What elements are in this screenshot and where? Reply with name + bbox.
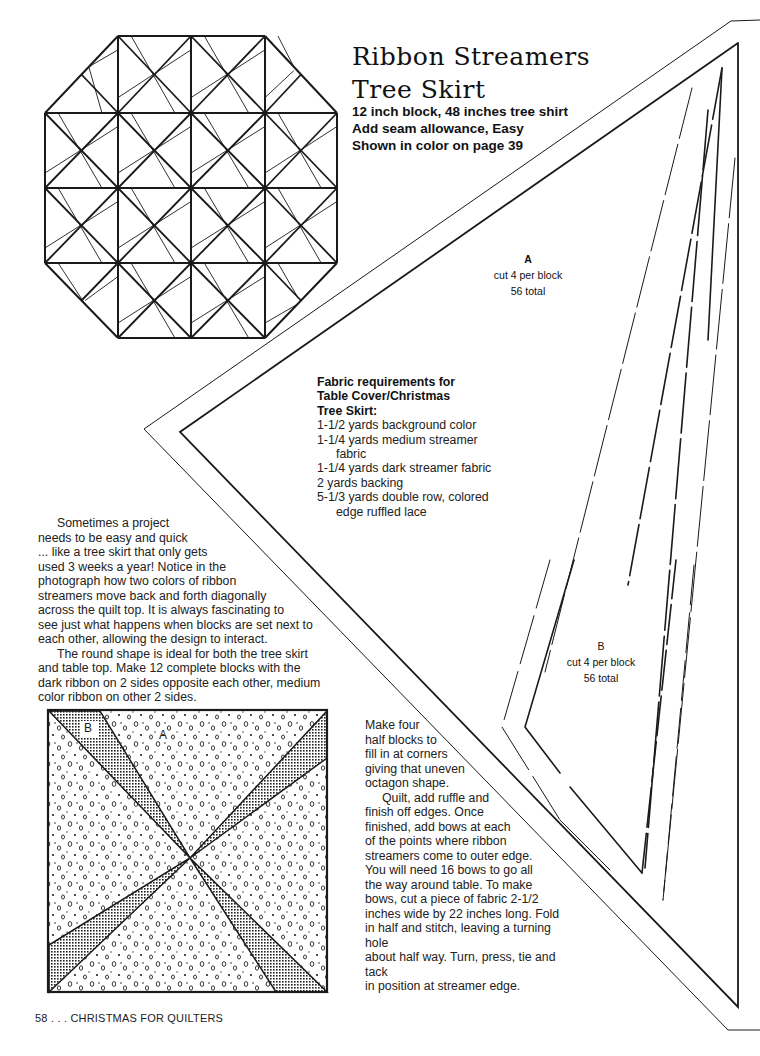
text-line: streamers come to outer edge.: [365, 849, 565, 864]
text-line: You will need 16 bows to go all: [365, 863, 565, 878]
text-line: in position at streamer edge.: [365, 979, 565, 994]
text-line: Quilt, add ruffle and: [365, 791, 565, 806]
instructions-paragraph-1: Make four half blocks to fill in at corn…: [365, 718, 565, 791]
text-line: the way around table. To make: [365, 878, 565, 893]
text-line: half blocks to: [365, 733, 565, 748]
text-line: octagon shape.: [365, 776, 565, 791]
block-label-b: B: [84, 721, 92, 735]
text-line: of the points where ribbon: [365, 834, 565, 849]
text-line: Make four: [365, 718, 565, 733]
page-footer: 58 . . . CHRISTMAS FOR QUILTERS: [35, 1012, 223, 1024]
text-line: finished, add bows at each: [365, 820, 565, 835]
text-line: fill in at corners: [365, 747, 565, 762]
text-line: finish off edges. Once: [365, 805, 565, 820]
block-label-a: A: [159, 728, 167, 742]
text-line: bows, cut a piece of fabric 2-1/2: [365, 892, 565, 907]
text-line: giving that uneven: [365, 762, 565, 777]
text-line: in half and stitch, leaving a turning ho…: [365, 921, 565, 950]
instructions-text: Make four half blocks to fill in at corn…: [365, 718, 565, 994]
text-line: inches wide by 22 inches long. Fold: [365, 907, 565, 922]
instructions-paragraph-2: Quilt, add ruffle and finish off edges. …: [365, 791, 565, 994]
text-line: about half way. Turn, press, tie and tac…: [365, 950, 565, 979]
